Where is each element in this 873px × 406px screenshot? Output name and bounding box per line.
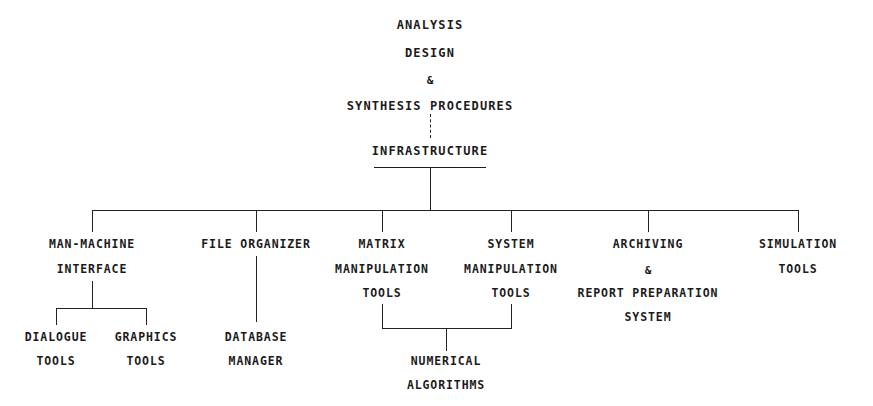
title-line-analysis: ANALYSIS — [397, 19, 464, 31]
branch-man-machine-interface-line-2: INTERFACE — [57, 264, 127, 276]
branch-matrix-manipulation-tools-line-2: MANIPULATION — [335, 264, 429, 276]
connector-drop-man-machine-interface — [92, 210, 93, 232]
connector-numerical-algorithms-merge-bus — [382, 328, 512, 329]
child-database-manager-line-2: MANAGER — [229, 356, 284, 368]
branch-archiving-line-2-ampersand: & — [645, 265, 652, 276]
branch-matrix-manipulation-tools-line-3: TOOLS — [362, 288, 401, 300]
connector-drop-graphics-tools — [146, 308, 147, 325]
title-line-ampersand: & — [427, 75, 434, 86]
connector-root-stem — [430, 168, 431, 210]
child-database-manager-line-1: DATABASE — [225, 332, 288, 344]
connector-main-bus — [92, 210, 798, 211]
child-dialogue-tools-line-1: DIALOGUE — [25, 332, 88, 344]
branch-archiving-line-3: REPORT PREPARATION — [578, 288, 719, 300]
title-line-design: DESIGN — [405, 47, 455, 59]
diagram-canvas: ANALYSIS DESIGN & SYNTHESIS PROCEDURES I… — [0, 0, 873, 406]
connector-system-to-numerical-algorithms — [511, 304, 512, 328]
connector-drop-file-organizer — [256, 210, 257, 232]
connector-title-to-root-dashed — [430, 114, 431, 138]
branch-man-machine-interface-line-1: MAN-MACHINE — [49, 239, 135, 251]
connector-file-organizer-to-database-manager — [256, 256, 257, 322]
child-dialogue-tools-line-2: TOOLS — [36, 356, 75, 368]
child-numerical-algorithms-line-1: NUMERICAL — [411, 356, 481, 368]
branch-simulation-tools-line-2: TOOLS — [778, 264, 817, 276]
connector-man-machine-interface-stem — [92, 281, 93, 308]
branch-archiving-line-1: ARCHIVING — [613, 239, 683, 251]
child-numerical-algorithms-line-2: ALGORITHMS — [407, 380, 485, 392]
branch-system-manipulation-tools-line-3: TOOLS — [491, 288, 530, 300]
branch-system-manipulation-tools-line-1: SYSTEM — [488, 239, 535, 251]
branch-simulation-tools-line-1: SIMULATION — [759, 239, 837, 251]
branch-file-organizer-line-1: FILE ORGANIZER — [201, 239, 311, 251]
connector-drop-archiving-report-preparation-system — [648, 210, 649, 232]
child-graphics-tools-line-1: GRAPHICS — [115, 332, 178, 344]
root-label-infrastructure: INFRASTRUCTURE — [372, 145, 489, 157]
connector-drop-system-manipulation-tools — [511, 210, 512, 232]
child-graphics-tools-line-2: TOOLS — [126, 356, 165, 368]
branch-matrix-manipulation-tools-line-1: MATRIX — [359, 239, 406, 251]
branch-archiving-line-4: SYSTEM — [625, 312, 672, 324]
branch-system-manipulation-tools-line-2: MANIPULATION — [464, 264, 558, 276]
connector-drop-simulation-tools — [798, 210, 799, 232]
connector-drop-matrix-manipulation-tools — [382, 210, 383, 232]
connector-drop-dialogue-tools — [56, 308, 57, 325]
title-line-synthesis-procedures: SYNTHESIS PROCEDURES — [347, 100, 514, 112]
connector-man-machine-interface-sub-bus — [56, 308, 146, 309]
connector-drop-numerical-algorithms — [446, 328, 447, 351]
connector-matrix-to-numerical-algorithms — [382, 304, 383, 328]
